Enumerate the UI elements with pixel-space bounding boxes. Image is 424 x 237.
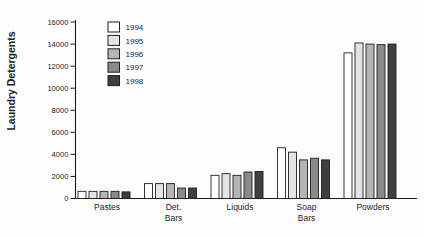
bar-1997-soap-bars [311, 158, 319, 198]
bar-1994-pastes [78, 191, 86, 198]
x-category-label: Bars [165, 213, 182, 223]
bar-1998-pastes [122, 192, 130, 199]
bar-1996-powders [366, 44, 374, 198]
laundry-detergents-bar-chart: Laundry Detergents0200040006000800010000… [0, 0, 424, 237]
x-category-label: Soap [297, 202, 317, 212]
y-tick-label: 14000 [47, 40, 68, 49]
bar-1994-soap-bars [278, 148, 286, 199]
y-tick-label: 2000 [52, 172, 69, 181]
bar-1994-det-bars [145, 184, 153, 199]
bar-1996-soap-bars [300, 160, 308, 199]
bar-1995-powders [355, 43, 363, 199]
bar-1995-det-bars [156, 184, 164, 199]
y-tick-label: 16000 [47, 18, 68, 27]
legend-swatch-1996 [108, 49, 120, 59]
y-tick-label: 8000 [52, 106, 69, 115]
legend-label-1997: 1997 [126, 63, 144, 72]
y-tick-label: 4000 [52, 150, 69, 159]
bar-1995-soap-bars [289, 152, 297, 198]
x-category-label: Bars [298, 213, 315, 223]
x-category-label: Powders [356, 202, 389, 212]
bar-1998-powders [388, 44, 396, 198]
bar-chart-figure: Laundry Detergents0200040006000800010000… [0, 0, 424, 237]
legend-label-1995: 1995 [126, 37, 144, 46]
bar-1998-liquids [255, 171, 263, 198]
bar-1995-liquids [222, 174, 230, 199]
x-category-label: Det. [166, 202, 182, 212]
bar-1998-soap-bars [322, 160, 330, 199]
bar-1996-det-bars [167, 184, 175, 199]
legend-swatch-1998 [108, 76, 120, 86]
bar-1996-liquids [233, 175, 241, 198]
legend-label-1994: 1994 [126, 23, 144, 32]
bar-1995-pastes [89, 191, 97, 198]
x-category-label: Pastes [94, 202, 120, 212]
legend-label-1996: 1996 [126, 50, 144, 59]
y-axis-title: Laundry Detergents [5, 31, 17, 130]
bar-1994-powders [344, 53, 352, 199]
bar-1997-det-bars [178, 188, 186, 198]
bar-1997-liquids [244, 172, 252, 198]
x-category-label: Liquids [227, 202, 254, 212]
y-tick-label: 10000 [47, 84, 68, 93]
legend-swatch-1994 [108, 22, 120, 32]
bar-1997-pastes [111, 191, 119, 198]
bar-1998-det-bars [189, 188, 197, 198]
bar-1997-powders [377, 45, 385, 199]
legend-swatch-1995 [108, 35, 120, 45]
y-tick-label: 12000 [47, 62, 68, 71]
legend-swatch-1997 [108, 62, 120, 72]
y-tick-label: 6000 [52, 128, 69, 137]
y-tick-label: 0 [64, 194, 68, 203]
legend-label-1998: 1998 [126, 77, 144, 86]
bar-1994-liquids [211, 175, 219, 198]
bar-1996-pastes [100, 191, 108, 198]
